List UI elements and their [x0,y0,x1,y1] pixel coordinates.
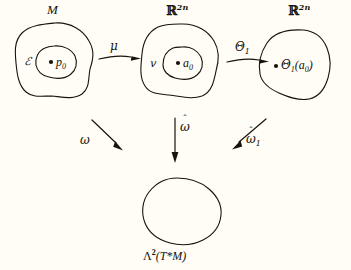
arrow-omega-hat-accent: ˆ [182,114,187,124]
commutative-diagram: M ℰ p0 ℝ2n ⅴ a0 ℝ2n Θ1(a0) μ Θ1 ω ˆω ˆω1… [0,0,351,270]
point-a0-label: a0 [183,57,193,72]
rn-domain-set-label: ℝ2n [166,3,188,17]
target-blob [143,178,221,245]
arrow-omega-head [113,141,123,150]
point-theta1a0-arg-open: (a [295,58,305,72]
point-p0-dot [49,60,53,64]
arrow-theta1-head [259,59,269,64]
point-p0-subscript: 0 [62,62,66,71]
arrow-omega-hat-glyph: ˆω [180,121,190,133]
point-theta1a0-dot [274,64,278,68]
point-p0-label: p0 [56,56,66,71]
rn-image-set-base: ℝ [288,3,299,18]
point-theta1a0-label: Θ1(a0) [281,59,313,74]
rn-domain-set-base: ℝ [166,3,177,18]
arrow-theta1-shaft [227,59,259,62]
arrow-omega-label: ω [80,134,90,146]
arrow-mu-head [131,56,141,61]
arrow-omega-shaft [92,120,116,143]
diagram-shapes-layer [0,0,351,270]
arrow-omega-hat-1-head [232,141,242,150]
arrow-omega-hat-1-glyph: ˆω [246,133,256,145]
arrow-omega-hat-1-accent: ˆ [248,126,253,136]
point-theta1a0-arg-close: ) [309,58,313,72]
arrow-mu-shaft [99,56,131,59]
point-a0-dot [176,61,180,65]
arrow-omega-hat-label: ˆω [180,121,190,133]
arrow-theta1-base: Θ [235,40,245,54]
arrow-theta1-label: Θ1 [235,41,250,56]
arrow-theta1-subscript: 1 [245,47,250,56]
manifold-set-label: M [47,3,58,16]
target-label: Λ2(T*M) [143,249,186,262]
rn-domain-set-exponent: 2n [177,2,188,12]
target-label-lambda: Λ [143,249,152,263]
arrow-omega-hat-1-subscript: 1 [256,139,261,148]
manifold-neighborhood-label: ℰ [23,56,31,67]
arrow-omega-hat-head [172,152,179,163]
point-theta1a0-base: Θ [281,58,291,72]
target-label-rest: (T*M) [156,249,187,263]
point-a0-subscript: 0 [189,63,193,72]
rn-image-set-exponent: 2n [299,2,310,12]
arrow-mu-label: μ [110,40,118,52]
arrow-omega-hat-1-label: ˆω1 [246,133,261,148]
rn-domain-neighborhood-label: ⅴ [149,58,156,69]
rn-image-set-label: ℝ2n [288,3,310,17]
